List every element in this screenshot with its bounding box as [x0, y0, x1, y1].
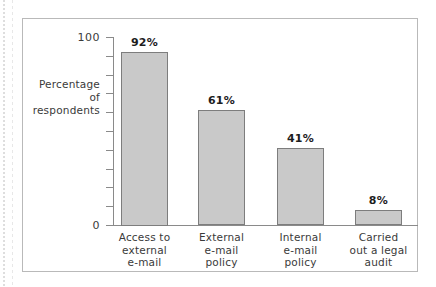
y-axis-title-line-2: of: [12, 91, 100, 104]
category-4-line-2: out a legal: [340, 244, 417, 257]
y-axis-title: Percentage of respondents: [12, 78, 100, 117]
category-1-line-1: Access to: [106, 231, 183, 244]
category-1-line-2: external: [106, 244, 183, 257]
y-axis-tick-0: [106, 225, 113, 226]
bar-carried-out-a-legal-audit[interactable]: [355, 210, 402, 225]
y-axis-title-line-1: Percentage: [12, 78, 100, 91]
y-axis-tick-50: [106, 131, 113, 132]
x-axis-category-label-2: External e-mail policy: [183, 231, 260, 269]
bar-chart: 100 0 Percentage of respondents 92% Acce…: [0, 0, 436, 287]
y-axis-tick-40: [106, 150, 113, 151]
bar-value-label-3: 41%: [277, 133, 324, 145]
bar-internal-email-policy[interactable]: [277, 148, 324, 226]
y-axis-tick-80: [106, 75, 113, 76]
y-axis-title-line-3: respondents: [12, 104, 100, 117]
category-3-line-1: Internal: [262, 231, 339, 244]
y-axis-tick-90: [106, 56, 113, 57]
bar-value-label-1: 92%: [121, 37, 168, 49]
x-axis-category-label-4: Carried out a legal audit: [340, 231, 417, 269]
x-axis-category-label-1: Access to external e-mail: [106, 231, 183, 269]
y-axis-tick-70: [106, 93, 113, 94]
y-axis-tick-label-max: 100: [74, 32, 100, 43]
category-2-line-1: External: [183, 231, 260, 244]
category-1-line-3: e-mail: [106, 256, 183, 269]
category-3-line-2: e-mail: [262, 244, 339, 257]
category-2-line-3: policy: [183, 256, 260, 269]
y-axis-tick-60: [106, 112, 113, 113]
bar-value-label-2: 61%: [198, 95, 245, 107]
bar-external-email-policy[interactable]: [198, 110, 245, 225]
category-2-line-2: e-mail: [183, 244, 260, 257]
y-axis-tick-20: [106, 187, 113, 188]
bar-value-label-4: 8%: [355, 195, 402, 207]
y-axis-tick-label-min: 0: [84, 220, 100, 231]
category-4-line-3: audit: [340, 256, 417, 269]
x-axis-category-label-3: Internal e-mail policy: [262, 231, 339, 269]
y-axis-tick-10: [106, 206, 113, 207]
category-4-line-1: Carried: [340, 231, 417, 244]
y-axis-line: [113, 37, 114, 226]
y-axis-tick-30: [106, 169, 113, 170]
category-3-line-3: policy: [262, 256, 339, 269]
bar-access-to-external-email[interactable]: [121, 52, 168, 226]
y-axis-tick-100: [106, 37, 113, 38]
